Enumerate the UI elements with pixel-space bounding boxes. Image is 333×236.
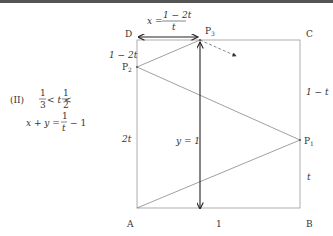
p1-subscript: 1	[310, 140, 314, 147]
label-d-p2: 1 − 2t	[109, 50, 138, 60]
eq-lhs: x + y =	[26, 118, 60, 128]
eq-rhs: − 1	[70, 118, 86, 128]
segment-p1-p2	[137, 67, 300, 140]
point-p2-dot	[136, 66, 138, 68]
label-p2: P2	[122, 62, 132, 73]
vertex-a: A	[126, 219, 134, 229]
label-p3: P3	[205, 26, 215, 37]
ineq-right-num: 1	[63, 88, 69, 98]
label-x-num: 1 − 2t	[163, 10, 192, 20]
vertex-d: D	[125, 29, 132, 39]
label-x-den: t	[172, 22, 176, 32]
segment-p2-p3	[137, 40, 200, 67]
vertex-c: C	[306, 29, 313, 39]
label-p2-a: 2t	[121, 134, 132, 144]
p3-subscript: 3	[211, 30, 215, 37]
eq-num: 1	[62, 111, 68, 121]
point-p1-dot	[299, 139, 301, 141]
label-x-lhs: x =	[147, 16, 162, 26]
label-ab: 1	[216, 219, 222, 229]
label-y: y = 1	[175, 136, 200, 146]
eq-den: t	[62, 123, 66, 133]
dashed-continuation-arrow	[200, 40, 236, 56]
point-p3-dot	[199, 39, 201, 41]
geometry-diagram: A B C D P1 P2 P3 1 − 2t 2t 1 − t t 1 y =…	[0, 0, 333, 236]
label-p1: P1	[304, 136, 314, 147]
ineq-left-den: 3	[40, 100, 46, 110]
ineq-left-num: 1	[40, 88, 46, 98]
label-c-p1: 1 − t	[306, 87, 329, 97]
square-abcd	[137, 40, 300, 208]
ineq-right-den: 2	[63, 100, 69, 110]
label-p1-b: t	[307, 172, 311, 182]
segment-a-p1	[137, 140, 300, 208]
vertex-b: B	[306, 219, 313, 229]
case-label: (II)	[10, 95, 24, 105]
p2-subscript: 2	[128, 66, 132, 73]
